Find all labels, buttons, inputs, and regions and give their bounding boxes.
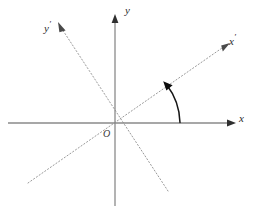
y-prime-axis-label: y′	[44, 20, 51, 34]
x-prime-label-mark: ′	[234, 32, 236, 42]
coordinate-rotation-figure: y x x′ y′ O	[0, 0, 267, 216]
angle-arc-path	[167, 85, 181, 123]
x-prime-axis	[28, 43, 230, 183]
x-axis	[8, 120, 236, 127]
origin-label: O	[103, 129, 110, 139]
x-prime-axis-label: x′	[229, 33, 236, 47]
figure-canvas	[0, 0, 267, 216]
y-prime-label-mark: ′	[49, 19, 51, 29]
x-axis-label-text: x	[239, 112, 244, 124]
y-axis-label: y	[125, 5, 130, 16]
y-axis	[112, 14, 119, 206]
rotation-angle-arc	[163, 81, 180, 122]
y-prime-axis	[58, 22, 168, 191]
origin-label-text: O	[103, 128, 110, 139]
x-axis-label: x	[239, 113, 244, 124]
x-prime-axis-line	[28, 48, 222, 183]
angle-arc-arrowhead-icon	[163, 81, 172, 90]
y-axis-arrowhead-icon	[112, 14, 119, 23]
y-prime-arrowhead-icon	[58, 22, 66, 32]
y-axis-label-text: y	[125, 4, 130, 16]
x-axis-arrowhead-icon	[227, 120, 236, 127]
